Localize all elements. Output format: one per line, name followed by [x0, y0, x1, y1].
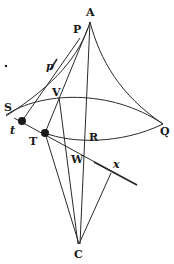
label-C: C	[74, 248, 83, 261]
label-R: R	[89, 131, 99, 144]
label-A: A	[85, 6, 95, 19]
label-T: T	[29, 135, 38, 148]
label-P: P	[73, 23, 81, 36]
label-V: V	[51, 86, 61, 99]
body-T	[41, 129, 49, 137]
label-x: x	[112, 158, 120, 171]
line-x-c	[79, 173, 111, 244]
line-t-c	[45, 133, 79, 244]
label-t: t	[10, 124, 15, 137]
line-p-t	[22, 38, 80, 121]
line-v-c	[59, 97, 78, 244]
label-Q: Q	[160, 125, 170, 138]
label-W: W	[70, 153, 84, 166]
geometry-diagram: A P p V S Q t T R W x C	[0, 0, 174, 264]
right-cusp-curve	[90, 22, 163, 124]
label-p: p	[46, 60, 54, 73]
stray-dot	[5, 65, 7, 67]
body-t	[18, 117, 26, 125]
line-a-t	[45, 28, 88, 133]
label-S: S	[4, 101, 12, 114]
